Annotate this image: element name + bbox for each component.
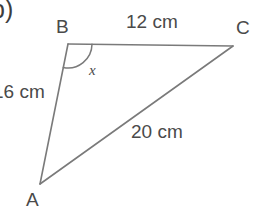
vertex-label-a: A [26,190,39,209]
vertex-label-c: C [236,18,250,37]
part-label: b) [0,0,13,22]
vertex-label-b: B [56,17,69,36]
side-ab-line [40,44,68,184]
triangle-drawing [0,0,259,216]
angle-variable-label: x [89,63,96,78]
side-length-label-bc: 12 cm [126,12,178,31]
side-length-label-ac: 20 cm [131,122,183,141]
geometry-figure: b) B C A 12 cm 16 cm 20 cm x [0,0,259,216]
side-length-label-ab: 16 cm [0,82,45,101]
side-ac-line [40,46,233,184]
